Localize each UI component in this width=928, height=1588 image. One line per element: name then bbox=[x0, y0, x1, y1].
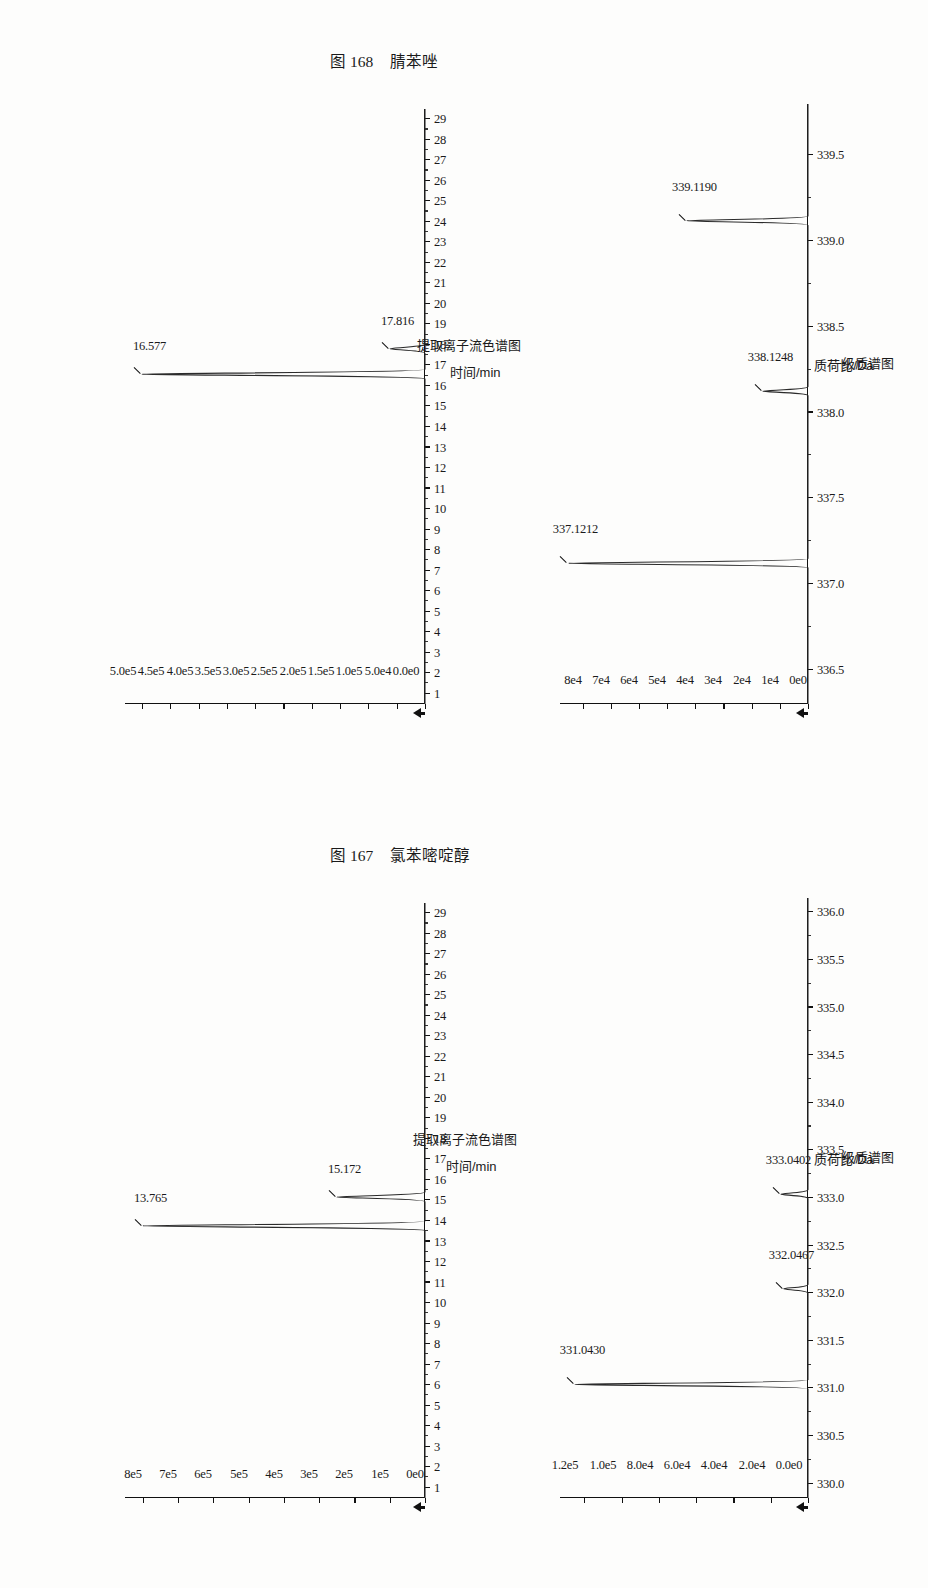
fig168-ms-y-tick bbox=[808, 704, 809, 709]
fig168-ms-x-tick-label: 337.0 bbox=[817, 577, 844, 592]
fig168-ms-peak-label: 337.1212 bbox=[553, 522, 598, 537]
fig167-eic-x-tick-label: 25 bbox=[434, 988, 446, 1003]
fig167-eic-peak-label: 15.172 bbox=[328, 1162, 361, 1177]
fig167-eic-x-tick bbox=[425, 1076, 430, 1077]
fig168-eic-x-tick-label: 12 bbox=[434, 461, 446, 476]
fig168-eic-y-tick bbox=[227, 704, 228, 709]
fig168-eic-x-tick-label: 29 bbox=[434, 112, 446, 127]
fig167-eic-x-tick bbox=[425, 1364, 430, 1365]
fig168-ms-x-tick bbox=[808, 326, 813, 327]
fig167-ms-x-tick bbox=[808, 1102, 813, 1103]
fig168-eic-trace bbox=[125, 109, 425, 704]
fig168-eic-x-tick-label: 9 bbox=[434, 522, 440, 537]
fig167-eic-x-tick-label: 13 bbox=[434, 1234, 446, 1249]
fig168-ms-x-tick bbox=[808, 411, 813, 412]
figure-167-name: 氯苯嘧啶醇 bbox=[390, 847, 470, 864]
fig167-ms-y-tick bbox=[659, 1498, 660, 1503]
fig167-eic-y-tick bbox=[178, 1498, 179, 1503]
fig168-ms-y-tick bbox=[780, 704, 781, 709]
fig167-eic-x-tick bbox=[425, 912, 430, 913]
fig168-ms-y-tick bbox=[583, 704, 584, 709]
fig167-eic-x-tick-label: 10 bbox=[434, 1296, 446, 1311]
fig167-eic-x-tick-label: 6 bbox=[434, 1378, 440, 1393]
fig168-ms-panel: 336.5337.0337.5338.0338.5339.0339.50e01e… bbox=[560, 104, 808, 704]
fig167-ms-x-tick bbox=[808, 1197, 813, 1198]
fig167-eic-panel: 1234567891011121314151617181920212223242… bbox=[125, 903, 425, 1498]
fig167-ms-x-tick bbox=[808, 1340, 813, 1341]
fig167-eic-y-tick bbox=[143, 1498, 144, 1503]
fig167-eic-x-tick-label: 5 bbox=[434, 1398, 440, 1413]
figure-167-number: 图 167 bbox=[330, 847, 373, 864]
fig167-eic-x-tick bbox=[425, 953, 430, 954]
fig168-eic-x-tick bbox=[425, 139, 430, 140]
fig168-eic-x-tick-label: 15 bbox=[434, 399, 446, 414]
fig167-eic-x-tick bbox=[425, 1097, 430, 1098]
fig168-eic-x-tick-label: 23 bbox=[434, 235, 446, 250]
fig168-eic-x-tick bbox=[425, 241, 430, 242]
fig168-eic-x-tick-label: 8 bbox=[434, 543, 440, 558]
fig167-ms-origin-marker-arrow bbox=[796, 1502, 804, 1512]
fig168-ms-y-tick bbox=[695, 704, 696, 709]
fig167-eic-x-tick-label: 11 bbox=[434, 1275, 446, 1290]
fig168-eic-x-tick-label: 25 bbox=[434, 194, 446, 209]
fig167-ms-peak-label: 332.0467 bbox=[769, 1248, 814, 1263]
fig167-eic-x-tick bbox=[425, 1220, 430, 1221]
fig167-ms-x-tick-label: 336.0 bbox=[817, 905, 844, 920]
fig167-ms-x-tick bbox=[808, 1006, 813, 1007]
fig167-eic-x-tick bbox=[425, 1343, 430, 1344]
fig168-eic-x-tick-label: 1 bbox=[434, 686, 440, 701]
fig168-ms-y-tick bbox=[667, 704, 668, 709]
fig168-eic-y-tick bbox=[312, 704, 313, 709]
fig167-ms-x-tick bbox=[808, 1054, 813, 1055]
fig167-eic-x-tick-label: 3 bbox=[434, 1439, 440, 1454]
fig168-ms-x-tick-label: 337.5 bbox=[817, 491, 844, 506]
fig167-eic-plot-area: 1234567891011121314151617181920212223242… bbox=[125, 903, 425, 1498]
fig167-eic-trace bbox=[125, 903, 425, 1498]
fig168-eic-x-tick bbox=[425, 693, 430, 694]
fig167-ms-x-tick bbox=[808, 1387, 813, 1388]
fig167-ms-x-tick-label: 334.0 bbox=[817, 1095, 844, 1110]
fig167-eic-x-tick bbox=[425, 1179, 430, 1180]
fig167-eic-x-tick bbox=[425, 994, 430, 995]
fig168-ms-y-tick bbox=[611, 704, 612, 709]
fig167-eic-x-tick bbox=[425, 1384, 430, 1385]
fig168-eic-x-tick bbox=[425, 426, 430, 427]
fig167-eic-x-tick-label: 8 bbox=[434, 1337, 440, 1352]
fig167-ms-x-tick bbox=[808, 1292, 813, 1293]
fig167-eic-x-tick bbox=[425, 1261, 430, 1262]
fig167-ms-y-tick bbox=[622, 1498, 623, 1503]
fig167-eic-x-tick-label: 20 bbox=[434, 1090, 446, 1105]
fig167-ms-x-tick-label: 335.5 bbox=[817, 952, 844, 967]
fig168-eic-x-tick-label: 2 bbox=[434, 666, 440, 681]
fig167-ms-y-tick bbox=[584, 1498, 585, 1503]
fig168-ms-x-tick bbox=[808, 240, 813, 241]
figure-167: 1234567891011121314151617181920212223242… bbox=[0, 794, 928, 1588]
fig168-eic-y-tick bbox=[199, 704, 200, 709]
fig167-eic-x-tick bbox=[425, 933, 430, 934]
fig167-ms-x-tick-label: 333.0 bbox=[817, 1191, 844, 1206]
fig167-ms-x-tick-label: 330.0 bbox=[817, 1476, 844, 1491]
fig167-eic-y-tick bbox=[213, 1498, 214, 1503]
fig167-ms-subtitle: 一级质谱图 bbox=[829, 1147, 894, 1166]
fig168-eic-x-tick-label: 22 bbox=[434, 255, 446, 270]
fig168-ms-x-tick bbox=[808, 154, 813, 155]
fig168-ms-x-tick-label: 338.0 bbox=[817, 405, 844, 420]
fig168-eic-x-tick bbox=[425, 159, 430, 160]
fig168-eic-x-tick-label: 21 bbox=[434, 276, 446, 291]
fig168-eic-x-tick-label: 7 bbox=[434, 563, 440, 578]
fig167-ms-x-tick-label: 334.5 bbox=[817, 1048, 844, 1063]
fig168-eic-plot-area: 1234567891011121314151617181920212223242… bbox=[125, 109, 425, 704]
fig168-eic-x-tick bbox=[425, 282, 430, 283]
fig167-ms-x-tick-label: 332.0 bbox=[817, 1286, 844, 1301]
fig167-eic-x-tick bbox=[425, 1302, 430, 1303]
fig168-eic-y-tick bbox=[283, 704, 284, 709]
figure-167-caption: 图 167 氯苯嘧啶醇 bbox=[330, 843, 470, 865]
fig168-eic-x-tick bbox=[425, 364, 430, 365]
fig168-eic-x-tick-label: 13 bbox=[434, 440, 446, 455]
fig168-eic-x-tick bbox=[425, 570, 430, 571]
fig167-eic-x-tick bbox=[425, 1117, 430, 1118]
fig167-eic-y-tick bbox=[390, 1498, 391, 1503]
figure-168-number: 图 168 bbox=[330, 53, 373, 70]
fig167-eic-x-tick bbox=[425, 1240, 430, 1241]
fig167-eic-x-tick-label: 12 bbox=[434, 1255, 446, 1270]
